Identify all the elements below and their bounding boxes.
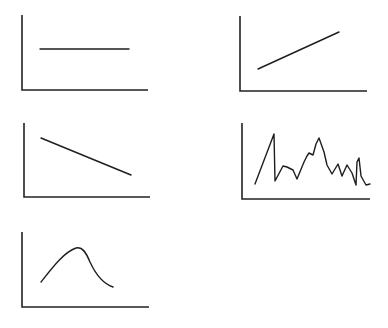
axes <box>22 15 148 90</box>
series-line <box>258 32 339 69</box>
axes <box>24 123 150 197</box>
axes <box>22 232 149 307</box>
chart-canvas <box>0 0 388 328</box>
series-line <box>41 248 113 287</box>
series-line <box>41 138 131 175</box>
chart-decreasing <box>24 123 150 197</box>
chart-fluctuating <box>242 123 370 199</box>
series-line <box>255 134 370 185</box>
axes <box>242 123 370 199</box>
chart-constant <box>22 15 148 90</box>
chart-peak <box>22 232 149 307</box>
axes <box>240 16 367 91</box>
chart-increasing <box>240 16 367 91</box>
